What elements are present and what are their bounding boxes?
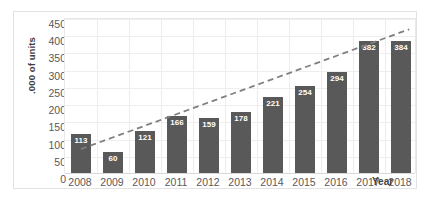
bar-value-label: 113	[71, 136, 91, 146]
x-axis-tick-label: 2016	[324, 176, 347, 188]
bar-value-label: 178	[231, 114, 251, 124]
y-axis-tick-label: 350	[32, 52, 66, 64]
bar: 60	[103, 152, 123, 173]
x-axis-tick-labels: 2008200920102011201220132014201520162017…	[64, 176, 416, 192]
chart-container: .000 of units 05010015020025030035040045…	[0, 0, 432, 206]
bar: 221	[263, 97, 283, 173]
bar-value-label: 294	[327, 74, 347, 84]
bar: 113	[71, 134, 91, 173]
y-axis-tick-label: 150	[32, 121, 66, 133]
chart-frame: .000 of units 05010015020025030035040045…	[13, 11, 417, 189]
y-axis-tick-label: 400	[32, 35, 66, 47]
bar-value-label: 166	[167, 118, 187, 128]
x-axis-tick-label: 2014	[260, 176, 283, 188]
x-axis-tick-label: 2011	[165, 176, 188, 188]
y-axis-tick-label: 100	[32, 139, 66, 151]
y-axis-tick-label: 450	[32, 18, 66, 30]
y-axis-tick-label: 300	[32, 70, 66, 82]
bar: 121	[135, 131, 155, 173]
bar: 294	[327, 72, 347, 173]
y-axis-tick-label: 50	[32, 156, 66, 168]
x-axis-tick-label: 2012	[196, 176, 219, 188]
bar: 178	[231, 112, 251, 173]
bar-value-label: 221	[263, 99, 283, 109]
gridline-horizontal	[65, 173, 415, 174]
x-axis-tick-label: 2013	[228, 176, 251, 188]
x-axis-tick-label: 2008	[68, 176, 91, 188]
bar: 382	[359, 41, 379, 173]
bar-value-label: 121	[135, 133, 155, 143]
plot-area: 11360121166159178221254294382384	[64, 18, 416, 173]
x-axis-tick-label: 2015	[292, 176, 315, 188]
x-axis-tick-label: 2010	[132, 176, 155, 188]
x-axis-title: Year	[372, 176, 393, 187]
y-axis-tick-label: 200	[32, 104, 66, 116]
y-axis-tick-label: 0	[32, 173, 66, 185]
bar: 254	[295, 86, 315, 173]
bar: 384	[391, 41, 411, 173]
bar-value-label: 60	[103, 154, 123, 164]
bar-value-label: 254	[295, 88, 315, 98]
bar-value-label: 384	[391, 43, 411, 53]
y-axis-tick-label: 250	[32, 87, 66, 99]
bar-value-label: 159	[199, 120, 219, 130]
y-axis-tick-labels: 050100150200250300350400450	[32, 18, 66, 173]
bar: 166	[167, 116, 187, 173]
bar-series: 11360121166159178221254294382384	[65, 19, 415, 173]
bar: 159	[199, 118, 219, 173]
bar-value-label: 382	[359, 43, 379, 53]
x-axis-tick-label: 2009	[100, 176, 123, 188]
